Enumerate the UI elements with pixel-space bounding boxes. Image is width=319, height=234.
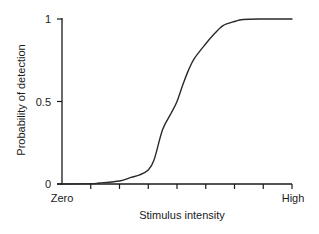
y-axis (57, 18, 62, 184)
y-tick-label: 0 (45, 178, 51, 190)
x-axis (57, 184, 292, 189)
psychometric-curve (62, 19, 292, 184)
y-tick-labels: 00.51 (36, 13, 51, 190)
x-ticks (91, 184, 292, 189)
x-axis-title: Stimulus intensity (139, 209, 225, 221)
y-ticks (57, 19, 62, 184)
y-axis-title: Probability of detection (15, 44, 27, 155)
y-tick-label: 0.5 (36, 96, 51, 108)
y-tick-label: 1 (45, 13, 51, 25)
x-tick-label-start: Zero (51, 192, 74, 204)
x-tick-label-end: High (282, 192, 305, 204)
psychometric-chart: 00.51 Zero High Stimulus intensity Proba… (0, 0, 319, 234)
